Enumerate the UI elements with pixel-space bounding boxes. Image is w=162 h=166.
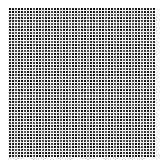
grid-pattern [9,8,155,157]
grid-shading [9,8,155,157]
